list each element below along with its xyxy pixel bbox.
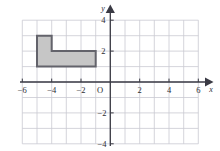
x-axis-name-label: x [208, 85, 213, 94]
origin-label: O [97, 85, 103, 95]
x-tick-label-pos2: 2 [138, 85, 142, 95]
x-tick-label-neg2: −2 [76, 85, 85, 95]
y-axis-name-label: y [100, 4, 105, 13]
x-tick-label-pos6: 6 [196, 85, 200, 95]
y-tick-label-neg2: −2 [97, 108, 106, 118]
x-tick-label-neg4: −4 [47, 85, 57, 95]
coordinate-plane-svg: −6 −4 −2 2 4 6 4 2 −2 −4 O x y [0, 0, 220, 151]
x-tick-label-neg6: −6 [18, 85, 27, 95]
y-tick-label-neg4: −4 [97, 139, 107, 149]
coordinate-grid-figure: −6 −4 −2 2 4 6 4 2 −2 −4 O x y [0, 0, 220, 151]
y-tick-label-pos2: 2 [101, 46, 105, 56]
